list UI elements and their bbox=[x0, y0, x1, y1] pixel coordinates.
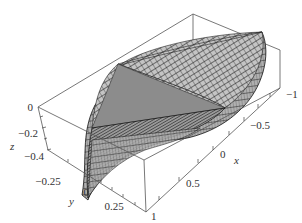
x-tick-label: 0 bbox=[220, 148, 226, 160]
y-axis-tick-labels: −0.25 0 0.25 bbox=[35, 175, 124, 212]
x-tick-label: −0.5 bbox=[250, 119, 270, 131]
z-tick-label: −0.4 bbox=[24, 150, 44, 162]
x-tick-label: −1 bbox=[286, 88, 298, 100]
surface bbox=[82, 32, 266, 200]
x-tick-label: 0.5 bbox=[186, 177, 200, 189]
surface-plot-3d: 0 −0.2 −0.4 z −0.25 0 0.25 y −1 −0.5 0 0… bbox=[0, 0, 302, 223]
z-axis-tick-labels: 0 −0.2 −0.4 bbox=[18, 101, 44, 162]
z-axis-label: z bbox=[9, 140, 15, 152]
y-axis-label: y bbox=[68, 195, 74, 207]
y-tick-label: 0 bbox=[83, 186, 89, 198]
y-tick-label: −0.25 bbox=[35, 175, 61, 187]
z-tick-label: 0 bbox=[28, 101, 34, 113]
x-tick-label: 1 bbox=[151, 210, 157, 222]
x-axis-label: x bbox=[233, 154, 239, 166]
y-tick-label: 0.25 bbox=[104, 200, 124, 212]
z-tick-label: −0.2 bbox=[18, 127, 38, 139]
